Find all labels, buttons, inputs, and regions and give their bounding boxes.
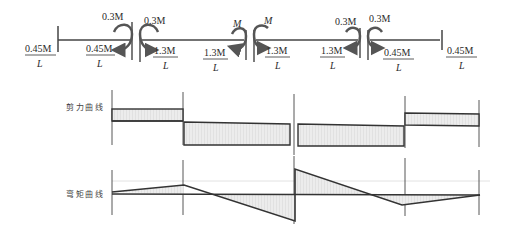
shear-diagram-label: 剪力曲线 bbox=[66, 102, 104, 112]
svg-text:0.45M: 0.45M bbox=[384, 47, 411, 58]
moment-label-4: M bbox=[263, 15, 273, 26]
svg-text:1.3M: 1.3M bbox=[154, 45, 176, 56]
svg-text:1.3M: 1.3M bbox=[204, 47, 226, 58]
moment-label-2: 0.3M bbox=[144, 15, 166, 26]
moment-diagram-label: 弯矩曲线 bbox=[66, 189, 104, 199]
svg-text:L: L bbox=[96, 58, 103, 69]
svg-text:0.45M: 0.45M bbox=[25, 43, 52, 54]
svg-text:L: L bbox=[458, 60, 465, 71]
svg-text:L: L bbox=[395, 62, 402, 73]
joint3-moment-right-icon bbox=[368, 28, 382, 48]
svg-text:L: L bbox=[212, 62, 219, 73]
moment-axis bbox=[112, 194, 480, 195]
moment-label-6: 0.3M bbox=[369, 13, 391, 24]
svg-text:0.45M: 0.45M bbox=[86, 43, 113, 54]
shear-block-2 bbox=[184, 122, 290, 145]
moment-label-3: M bbox=[232, 18, 242, 29]
force-labels: 0.45M L 0.45M L 1.3M L 1.3M L 1.3M L 1.3… bbox=[25, 43, 477, 73]
moment-label-1: 0.3M bbox=[102, 11, 124, 22]
svg-text:0.45M: 0.45M bbox=[447, 45, 474, 56]
shear-block-3 bbox=[298, 124, 404, 146]
joint1-moment-left-icon bbox=[114, 25, 132, 50]
svg-text:L: L bbox=[162, 60, 169, 71]
force-label-3: 1.3M L bbox=[153, 45, 178, 71]
shear-block-1 bbox=[112, 109, 183, 121]
svg-text:L: L bbox=[329, 60, 336, 71]
force-label-6: 1.3M L bbox=[320, 45, 345, 71]
shear-block-4 bbox=[405, 113, 479, 126]
joint2-moment-left-icon bbox=[232, 28, 246, 48]
svg-text:L: L bbox=[36, 58, 43, 69]
force-label-5: 1.3M L bbox=[265, 45, 290, 71]
svg-text:1.3M: 1.3M bbox=[321, 45, 343, 56]
joint3-moment-left-icon bbox=[346, 28, 360, 48]
svg-text:L: L bbox=[274, 60, 281, 71]
shear-diagram: 剪力曲线 bbox=[66, 90, 479, 155]
svg-text:1.3M: 1.3M bbox=[266, 45, 288, 56]
force-label-1: 0.45M L bbox=[25, 43, 56, 69]
force-label-4: 1.3M L bbox=[203, 47, 228, 73]
force-label-7: 0.45M L bbox=[383, 47, 414, 73]
moment-diagram: 弯矩曲线 bbox=[66, 156, 490, 224]
beam-diagram: 0.45M L 0.45M L 1.3M L 1.3M L 1.3M L 1.3… bbox=[0, 0, 506, 237]
force-label-2: 0.45M L bbox=[86, 43, 115, 69]
force-label-8: 0.45M L bbox=[446, 45, 477, 71]
moment-label-5: 0.3M bbox=[335, 16, 357, 27]
